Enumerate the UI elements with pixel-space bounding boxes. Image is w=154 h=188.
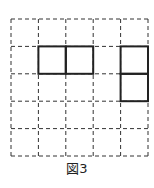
grid-figure bbox=[0, 0, 154, 160]
dashed-grid bbox=[11, 19, 148, 156]
horizontal-domino-cell bbox=[38, 46, 65, 73]
horizontal-domino-cell bbox=[66, 46, 93, 73]
vertical-domino-cell bbox=[121, 74, 148, 101]
figure-caption: 図3 bbox=[0, 161, 154, 177]
vertical-domino-cell bbox=[121, 46, 148, 73]
